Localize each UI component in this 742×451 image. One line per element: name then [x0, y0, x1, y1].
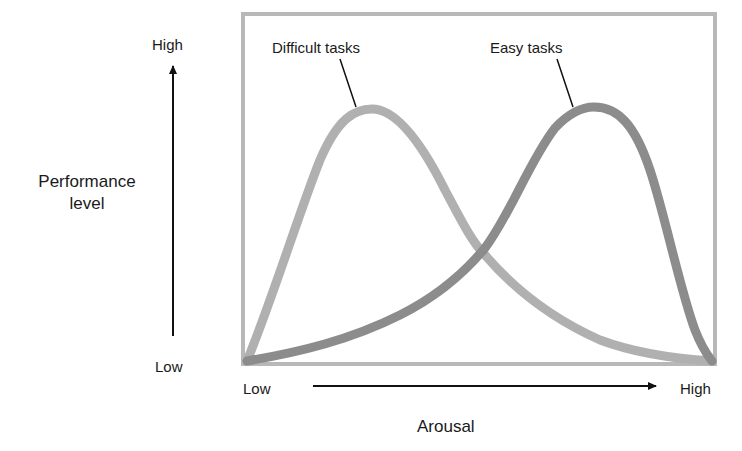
difficult-tasks-leader-line	[340, 59, 356, 107]
easy-tasks-curve	[247, 107, 712, 361]
easy-tasks-leader-line	[557, 59, 573, 107]
chart-canvas	[0, 0, 742, 451]
y-axis-low-label: Low	[155, 359, 183, 374]
y-axis-high-label: High	[152, 37, 183, 52]
difficult-tasks-label: Difficult tasks	[272, 40, 360, 55]
easy-tasks-label: Easy tasks	[490, 40, 563, 55]
y-axis-title: Performance level	[22, 171, 152, 215]
x-axis-high-label: High	[680, 381, 711, 396]
x-axis-low-label: Low	[243, 381, 271, 396]
x-axis-title: Arousal	[417, 418, 475, 435]
